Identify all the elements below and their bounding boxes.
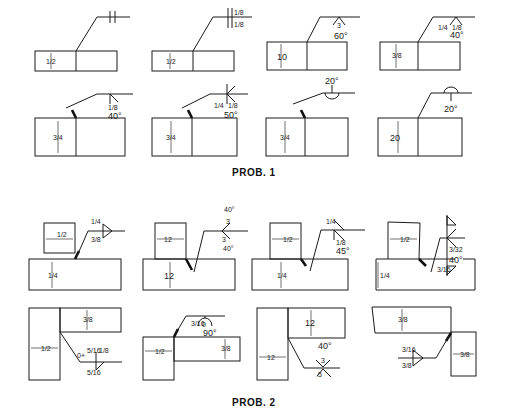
weld-symbol-exercise-sheet: 1/2 1/2 1/8 1/8 10 3 60° 3/8 [0, 0, 505, 415]
svg-text:1/2: 1/2 [166, 58, 176, 65]
svg-text:1/2: 1/2 [46, 58, 56, 65]
svg-text:3/32: 3/32 [449, 246, 463, 253]
svg-text:3: 3 [222, 236, 226, 243]
svg-text:40°: 40° [224, 206, 235, 213]
figure-2e: 1/2 3/8 0+ 5/16 1/8 5/16 [29, 308, 122, 380]
svg-text:40°: 40° [108, 111, 122, 121]
svg-text:0: 0 [202, 321, 206, 328]
svg-text:3/4: 3/4 [280, 134, 290, 141]
svg-text:3/8: 3/8 [398, 316, 408, 323]
svg-text:1/4: 1/4 [438, 24, 448, 31]
svg-text:1/2: 1/2 [400, 236, 410, 243]
svg-text:3/8: 3/8 [402, 362, 412, 369]
svg-text:1/2: 1/2 [155, 348, 165, 355]
prob1-title: PROB. 1 [232, 167, 276, 178]
figure-2a: 1/2 1/4 1/4 3/8 [29, 218, 125, 290]
svg-text:3/4: 3/4 [166, 134, 176, 141]
figure-1a: 1/2 [35, 11, 130, 71]
svg-text:3: 3 [337, 22, 341, 29]
svg-text:12: 12 [164, 236, 172, 243]
svg-text:1/8: 1/8 [99, 347, 109, 354]
svg-text:40°: 40° [449, 255, 463, 265]
svg-text:1/8: 1/8 [336, 239, 346, 246]
figure-1d: 3/8 1/4 1/8 40° [380, 17, 475, 70]
svg-text:3: 3 [226, 218, 230, 225]
svg-text:40°: 40° [223, 245, 234, 252]
svg-text:1/4: 1/4 [380, 272, 390, 279]
figure-2f: 1/2 3/8 3/16 0 90° [143, 316, 240, 380]
svg-text:3/4: 3/4 [53, 134, 63, 141]
svg-text:1/2: 1/2 [41, 345, 51, 352]
svg-text:3/8: 3/8 [392, 52, 402, 59]
svg-text:1/4: 1/4 [326, 218, 336, 225]
svg-text:1/2: 1/2 [283, 236, 293, 243]
svg-text:3/8: 3/8 [83, 316, 93, 323]
figure-2b: 12 12 40° 3 3 40° [143, 206, 248, 290]
svg-text:40°: 40° [318, 341, 332, 351]
svg-text:1/8: 1/8 [234, 21, 244, 28]
svg-text:3/16: 3/16 [402, 346, 416, 353]
figure-1f: 3/4 1/4 1/8 50° [152, 84, 248, 156]
svg-text:3/16: 3/16 [437, 266, 451, 273]
svg-text:1/8: 1/8 [228, 102, 238, 109]
svg-text:60°: 60° [334, 31, 348, 41]
svg-text:3: 3 [321, 357, 325, 364]
svg-text:5/16: 5/16 [87, 369, 101, 376]
figure-1g: 3/4 20° [266, 76, 355, 156]
svg-text:1/4: 1/4 [48, 272, 58, 279]
svg-text:1/8: 1/8 [234, 9, 244, 16]
svg-text:10: 10 [277, 52, 287, 62]
svg-text:45°: 45° [336, 246, 350, 256]
svg-text:20: 20 [390, 133, 400, 143]
svg-text:3/8: 3/8 [91, 236, 101, 243]
figure-1c: 10 3 60° [267, 17, 360, 70]
svg-text:.5: .5 [316, 371, 322, 378]
figure-1h: 20 20° [378, 87, 472, 156]
svg-text:12: 12 [305, 318, 315, 328]
svg-text:1/4: 1/4 [277, 272, 287, 279]
svg-text:1/2: 1/2 [57, 231, 67, 238]
figure-2g: 12 12 40° 3 .5 [257, 308, 345, 380]
svg-text:0+: 0+ [77, 352, 85, 359]
figure-2d: 1/2 1/4 3/32 40° 3/16 [376, 215, 475, 290]
svg-text:12: 12 [164, 271, 174, 281]
figure-1b: 1/2 1/8 1/8 [152, 8, 252, 71]
svg-text:1/8: 1/8 [108, 104, 118, 111]
svg-text:90°: 90° [203, 328, 217, 338]
svg-text:12: 12 [267, 354, 275, 361]
svg-text:3/8: 3/8 [460, 351, 470, 358]
svg-text:40°: 40° [450, 30, 464, 40]
svg-text:20°: 20° [325, 76, 339, 86]
figure-1e: 3/4 1/8 40° [35, 94, 133, 156]
prob2-title: PROB. 2 [232, 397, 276, 408]
svg-text:20°: 20° [444, 104, 458, 114]
svg-text:1/4: 1/4 [91, 218, 101, 225]
svg-text:1/4: 1/4 [214, 102, 224, 109]
figure-2h: 3/8 3/8 3/16 3/8 [372, 307, 476, 376]
svg-text:50°: 50° [224, 110, 238, 120]
figure-2c: 1/2 1/4 1/4 1/8 45° [252, 218, 365, 290]
svg-text:3/8: 3/8 [221, 345, 231, 352]
